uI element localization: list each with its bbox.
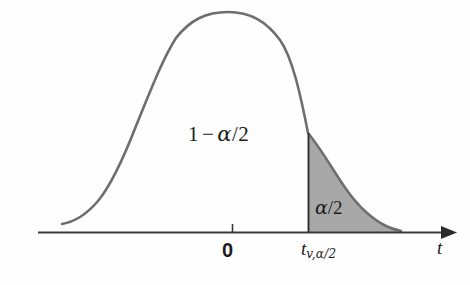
tail-area-over-two: /2 [328,197,343,218]
axis-arrowhead-icon [441,226,457,239]
central-area-label: 1−α/2 [188,124,249,145]
central-area-over-two: /2 [232,122,249,146]
central-area-one: 1 [188,122,199,146]
critical-value-subscript: v,α/2 [306,247,336,261]
t-distribution-figure: 1−α/2 α/2 0 tv,α/2 t [0,0,470,285]
critical-value-label: tv,α/2 [301,239,336,260]
central-area-minus: − [199,122,217,146]
x-axis-label: t [437,238,442,257]
central-area-alpha: α [217,122,232,146]
tail-area-alpha: α [315,196,328,218]
tail-area-label: α/2 [315,198,343,217]
origin-tick-label: 0 [222,240,233,260]
